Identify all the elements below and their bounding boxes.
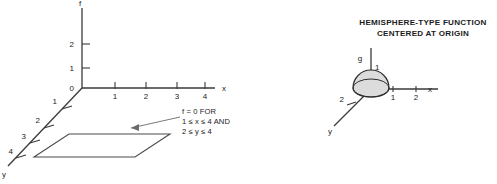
- left-f-tick-label-0: 0: [70, 84, 75, 93]
- left-f-axis-label: f: [79, 0, 82, 8]
- left-y-axis: [8, 88, 82, 166]
- right-y-tick-label-2: 2: [340, 95, 345, 104]
- right-title-line-2: CENTERED AT ORIGIN: [377, 29, 469, 38]
- left-annotation-line-2: 1 ≤ x ≤ 4 AND: [182, 117, 230, 126]
- left-x-tick-label-3: 3: [175, 92, 180, 101]
- left-y-tick-label-4: 4: [9, 147, 14, 156]
- left-f-tick-label-2: 2: [70, 40, 75, 49]
- left-x-tick-label-1: 1: [113, 92, 118, 101]
- left-x-axis-label: x: [222, 84, 226, 93]
- right-y-axis-label: y: [328, 127, 332, 136]
- hemisphere-dome: [353, 70, 389, 97]
- annotation-leader: [131, 117, 180, 131]
- right-plot: HEMISPHERE-TYPE FUNCTION CENTERED AT ORI…: [328, 18, 487, 136]
- right-g-axis-label: g: [358, 54, 362, 63]
- left-y-tick-label-3: 3: [22, 132, 27, 141]
- right-x-tick-label-1: 1: [391, 93, 396, 102]
- left-y-tick-label-2: 2: [36, 116, 41, 125]
- left-annotation-line-3: 2 ≤ y ≤ 4: [182, 127, 212, 136]
- zero-region-parallelogram: [34, 134, 170, 157]
- leader-arrowhead: [131, 124, 139, 131]
- left-x-tick-label-2: 2: [144, 92, 149, 101]
- left-f-tick-label-1: 1: [70, 64, 75, 73]
- left-annotation-line-1: f = 0 FOR: [182, 107, 216, 116]
- right-x-axis-label: x: [428, 85, 432, 94]
- left-x-tick-label-4: 4: [203, 92, 208, 101]
- left-plot: 0 1 2 f 1 2 3 4 x 1 2 3 4 y f = 0 F: [2, 0, 230, 179]
- right-x-tick-label-2: 2: [414, 93, 419, 102]
- technical-figure: 0 1 2 f 1 2 3 4 x 1 2 3 4 y f = 0 F: [0, 0, 497, 184]
- left-y-tick-label-1: 1: [53, 97, 58, 106]
- right-title-line-1: HEMISPHERE-TYPE FUNCTION: [359, 18, 486, 27]
- left-y-axis-label: y: [2, 170, 6, 179]
